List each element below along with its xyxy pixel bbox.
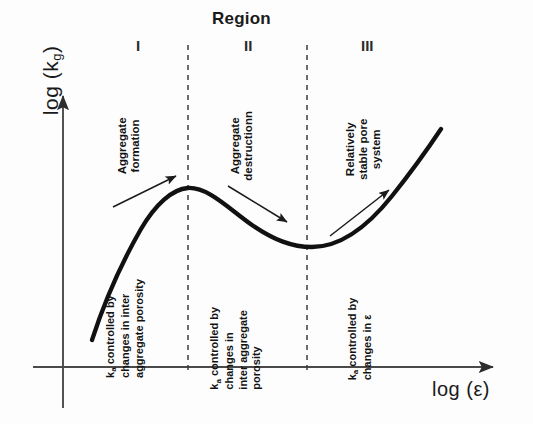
y-axis-title-subscript: g: [49, 53, 64, 61]
description-line: aggregate porosity: [133, 258, 146, 378]
caption-line: Aggregate: [229, 100, 242, 192]
caption-line: Relatively: [344, 99, 357, 199]
region-header: Region: [212, 10, 271, 28]
caption-line: destructionn: [242, 100, 255, 192]
caption-line: formation: [129, 100, 142, 192]
x-axis-title: log (ε): [432, 379, 490, 401]
k-subscript: a: [109, 367, 118, 371]
description-line: porosity: [250, 270, 263, 390]
caption-aggregate-destruction: Aggregate destructionn: [229, 100, 255, 192]
k-symbol: k: [346, 374, 358, 380]
description-line: changes in ε: [361, 260, 374, 380]
description-line: ka controlled by: [208, 270, 223, 390]
description-text: controlled by: [208, 307, 220, 379]
description-line: ka controlled by: [346, 260, 361, 380]
plot-canvas: [0, 0, 533, 424]
description-text: controlled by: [104, 295, 116, 367]
description-line: changes in: [223, 270, 236, 390]
description-region-2: ka controlled by changes in inter aggreg…: [208, 270, 263, 390]
y-axis-title-close: ): [39, 46, 62, 54]
description-line: ka controlled by: [104, 258, 119, 378]
region-numeral-2: II: [244, 38, 252, 54]
description-line: inter aggregate: [237, 270, 250, 390]
description-line: changes in inter: [119, 258, 132, 378]
k-subscript: a: [214, 379, 223, 383]
caption-line: Aggregate: [116, 100, 129, 192]
k-subscript: a: [351, 370, 360, 374]
region-numeral-3: III: [361, 38, 374, 54]
description-region-3: ka controlled by changes in ε: [346, 260, 375, 380]
figure-container: log (kg) log (ε) Region I II III Aggrega…: [0, 0, 533, 424]
region-numeral-1: I: [136, 38, 140, 54]
y-axis-title-main: log (k: [39, 61, 62, 115]
description-region-1: ka controlled by changes in inter aggreg…: [104, 258, 146, 378]
caption-line: stable pore: [357, 99, 370, 199]
caption-line: system: [369, 99, 382, 199]
k-symbol: k: [208, 384, 220, 390]
y-axis-title: log (kg): [40, 20, 65, 140]
k-symbol: k: [104, 372, 116, 378]
description-text: controlled by: [346, 298, 358, 370]
caption-aggregate-formation: Aggregate formation: [116, 100, 142, 192]
caption-stable-pore-system: Relatively stable pore system: [344, 99, 383, 199]
